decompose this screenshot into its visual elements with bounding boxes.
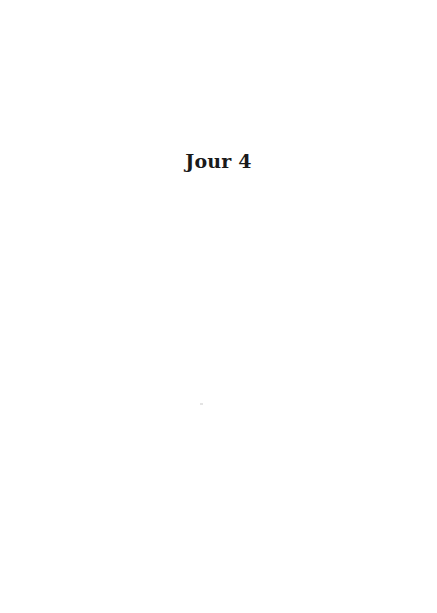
scan-artifact [200, 403, 203, 405]
document-page: Jour 4 [0, 0, 437, 613]
chapter-heading: Jour 4 [0, 150, 437, 172]
